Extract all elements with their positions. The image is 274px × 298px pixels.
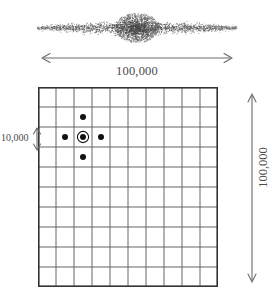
- scale-diagram: 100,000 10,000 100,000: [0, 0, 274, 298]
- grid-container: [38, 87, 218, 287]
- star-marker-east: [98, 134, 104, 140]
- sun-marker: [80, 134, 86, 140]
- cell-scale-label: 10,000: [1, 132, 29, 143]
- grid-canvas: [38, 87, 218, 287]
- star-marker-south: [80, 154, 86, 160]
- grid-lines: [38, 87, 218, 287]
- galaxy-canvas: [30, 2, 245, 52]
- grid-markers: [62, 114, 104, 160]
- galaxy-dot-cloud: [37, 13, 238, 44]
- star-marker-north: [80, 114, 86, 120]
- cell-scale-arrow: [31, 126, 43, 152]
- horizontal-scale-label: 100,000: [36, 64, 238, 79]
- star-marker-west: [62, 134, 68, 140]
- galaxy-illustration: [30, 2, 245, 52]
- vertical-scale-label: 100,000: [256, 138, 271, 198]
